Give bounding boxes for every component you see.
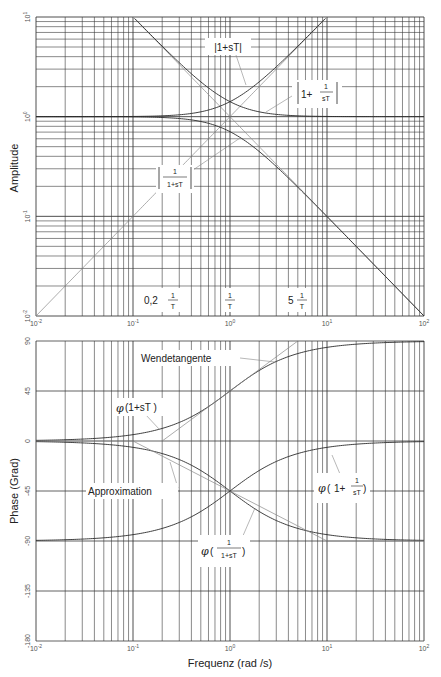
svg-text:10-1: 10-1 (22, 210, 31, 222)
svg-text:100: 100 (225, 643, 236, 652)
svg-text:1: 1 (300, 292, 304, 299)
svg-text:1: 1 (355, 477, 359, 484)
phase-tick-labels: 90450-45-90-135-180 (24, 337, 31, 648)
label-1-over-T: 1 T (222, 288, 238, 312)
svg-text:45: 45 (24, 387, 31, 395)
svg-text:101: 101 (22, 11, 31, 22)
label-wendetangente: Wendetangente (139, 350, 240, 366)
label-abs-1-plus-1-over-sT: 1+ 1 sT (292, 80, 342, 108)
svg-text:101: 101 (322, 318, 333, 327)
phase-axis-label: Phase (Grad) (8, 458, 20, 524)
svg-text:0: 0 (24, 439, 31, 443)
svg-text:(1+sT ): (1+sT ) (125, 402, 157, 413)
svg-text:1+: 1+ (334, 483, 346, 494)
label-5-over-T: 5 1 T (286, 288, 310, 312)
label-abs-1-plus-sT: |1+sT| (205, 38, 251, 55)
svg-text:102: 102 (419, 643, 430, 652)
label-0-2-over-T: 0,2 1 T (142, 288, 180, 312)
svg-text:sT: sT (353, 489, 362, 496)
svg-text:100: 100 (225, 318, 236, 327)
svg-text:10-1: 10-1 (127, 643, 139, 652)
phase-plot: 90450-45-90-135-180 Phase (Grad) Frequen… (8, 337, 424, 669)
svg-text:T: T (171, 303, 176, 310)
svg-text:10-2: 10-2 (30, 318, 42, 327)
svg-text:1: 1 (171, 292, 175, 299)
label-approximation: Approximation (86, 483, 178, 499)
svg-text:sT: sT (322, 95, 331, 102)
label-phi-1-plus-sT: φ (1+sT ) (113, 398, 169, 416)
amplitude-tick-labels: 10110010-110-2 (22, 11, 31, 322)
svg-text:5: 5 (288, 295, 294, 306)
bode-plot: 10110010-110-2 Amplitude |1+sT| 1+ 1 sT … (0, 0, 441, 677)
svg-text:90: 90 (24, 337, 31, 345)
svg-text:100: 100 (22, 111, 31, 122)
svg-text:10-2: 10-2 (30, 643, 42, 652)
svg-text:T: T (228, 303, 233, 310)
svg-text:10-1: 10-1 (127, 318, 139, 327)
amplitude-plot: 10110010-110-2 Amplitude |1+sT| 1+ 1 sT … (8, 11, 424, 322)
svg-text:0,2: 0,2 (144, 295, 158, 306)
svg-text:|1+sT|: |1+sT| (214, 42, 242, 53)
svg-text:1: 1 (228, 292, 232, 299)
svg-text:-90: -90 (24, 536, 31, 546)
svg-text:φ: φ (318, 482, 326, 495)
svg-text:101: 101 (322, 643, 333, 652)
svg-text:1+sT: 1+sT (167, 181, 183, 188)
svg-text:Wendetangente: Wendetangente (141, 353, 212, 364)
svg-text:φ: φ (201, 545, 209, 558)
label-phi-1-plus-1-over-sT: φ ( 1+ 1 sT ) (314, 473, 370, 503)
svg-text:1: 1 (173, 168, 177, 175)
amplitude-grid (36, 17, 424, 316)
svg-text:φ: φ (116, 402, 124, 415)
svg-text:1+sT: 1+sT (221, 552, 237, 559)
svg-text:1: 1 (227, 539, 231, 546)
label-phi-1-over-1-plus-sT: φ ( 1 1+sT ) (198, 535, 250, 567)
svg-text:): ) (363, 483, 366, 494)
svg-text:T: T (300, 303, 305, 310)
svg-text:Approximation: Approximation (88, 486, 152, 497)
svg-text:102: 102 (419, 318, 430, 327)
svg-text:1+: 1+ (301, 89, 313, 100)
svg-text:-135: -135 (24, 584, 31, 598)
frequency-axis-label: Frequenz (rad /s) (188, 657, 272, 669)
svg-text:-45: -45 (24, 486, 31, 496)
svg-text:): ) (242, 546, 245, 557)
svg-text:1: 1 (324, 83, 328, 90)
label-abs-1-over-1-plus-sT: 1 1+sT (156, 165, 194, 193)
amplitude-axis-label: Amplitude (8, 144, 20, 193)
